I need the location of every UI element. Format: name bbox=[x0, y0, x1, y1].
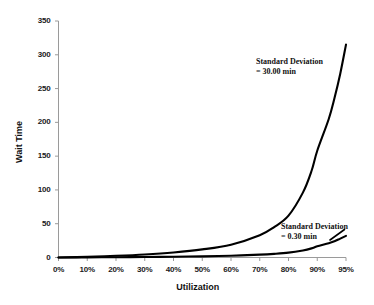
x-tick-label: 30% bbox=[130, 265, 160, 274]
y-axis-ticks bbox=[55, 21, 59, 258]
x-tick-label: 0% bbox=[44, 265, 74, 274]
y-tick-label: 50 bbox=[25, 219, 51, 228]
wait-time-vs-utilization-chart: 050100150200250300350 0%10%20%30%40%50%6… bbox=[0, 0, 374, 305]
x-tick-label: 95% bbox=[331, 265, 361, 274]
y-tick-label: 300 bbox=[25, 50, 51, 59]
x-axis-title: Utilization bbox=[176, 282, 219, 292]
x-tick-label: 50% bbox=[187, 265, 217, 274]
x-tick-label: 20% bbox=[101, 265, 131, 274]
annotation-sd-30min-line2: = 30.00 min bbox=[256, 67, 323, 77]
y-axis-title: Wait Time bbox=[14, 121, 24, 163]
y-tick-label: 0 bbox=[25, 253, 51, 262]
y-tick-label: 250 bbox=[25, 84, 51, 93]
chart-plot-area bbox=[0, 0, 374, 305]
annotation-sd-30min-line1: Standard Deviation bbox=[256, 57, 323, 67]
x-tick-label: 40% bbox=[159, 265, 189, 274]
y-tick-label: 350 bbox=[25, 16, 51, 25]
annotation-sd-0-30min-line1: Standard Deviation bbox=[281, 222, 348, 232]
x-tick-label: 10% bbox=[72, 265, 102, 274]
y-tick-label: 200 bbox=[25, 117, 51, 126]
annotation-sd-30min: Standard Deviation = 30.00 min bbox=[256, 57, 323, 77]
x-tick-label: 90% bbox=[302, 265, 332, 274]
annotation-sd-0-30min: Standard Deviation = 0.30 min bbox=[281, 222, 348, 242]
x-tick-label: 70% bbox=[245, 265, 275, 274]
x-tick-label: 60% bbox=[216, 265, 246, 274]
y-tick-label: 150 bbox=[25, 151, 51, 160]
y-tick-label: 100 bbox=[25, 185, 51, 194]
annotation-sd-0-30min-line2: = 0.30 min bbox=[281, 232, 348, 242]
x-tick-label: 80% bbox=[274, 265, 304, 274]
